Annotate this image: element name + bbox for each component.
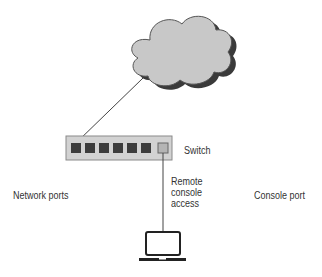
network-port-6 — [141, 143, 151, 153]
remote-console-label-line1: Remote — [171, 176, 203, 187]
network-diagram — [0, 0, 322, 277]
network-port-4 — [113, 143, 123, 153]
console-port-label: Console port — [254, 190, 305, 201]
remote-console-label-line2: console — [171, 187, 203, 198]
remote-console-label-line3: access — [171, 198, 203, 209]
cloud-to-switch-link — [76, 78, 143, 143]
network-port-1 — [71, 143, 81, 153]
remote-console-label: Remote console access — [171, 176, 203, 209]
network-ports-label: Network ports — [13, 190, 69, 201]
network-port-3 — [99, 143, 109, 153]
network-port-2 — [85, 143, 95, 153]
laptop-icon — [139, 232, 186, 261]
console-port — [158, 143, 168, 153]
switch-label: Switch — [184, 145, 211, 156]
network-port-5 — [127, 143, 137, 153]
